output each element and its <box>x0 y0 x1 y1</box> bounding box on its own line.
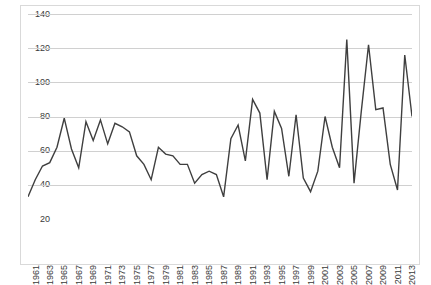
x-tick-label-1995: 1995 <box>278 265 287 285</box>
x-tick-label-1981: 1981 <box>176 265 185 285</box>
x-tick-label-2007: 2007 <box>365 265 374 285</box>
x-tick-label-2009: 2009 <box>379 265 388 285</box>
x-tick-label-1961: 1961 <box>32 265 41 285</box>
x-tick-label-1997: 1997 <box>292 265 301 285</box>
x-tick-label-1983: 1983 <box>191 265 200 285</box>
x-tick-label-1975: 1975 <box>133 265 142 285</box>
x-tick-label-2001: 2001 <box>321 265 330 285</box>
x-axis-tick-labels: 1961196319651967196919711973197519771979… <box>28 221 412 267</box>
x-tick-label-1985: 1985 <box>205 265 214 285</box>
x-tick-label-1973: 1973 <box>118 265 127 285</box>
x-tick-label-1979: 1979 <box>162 265 171 285</box>
x-tick-label-2005: 2005 <box>350 265 359 285</box>
data-series-1 <box>28 40 412 197</box>
x-tick-label-1989: 1989 <box>234 265 243 285</box>
x-tick-label-1987: 1987 <box>220 265 229 285</box>
gridlines <box>28 15 412 220</box>
x-tick-label-2013: 2013 <box>408 265 417 285</box>
x-tick-label-1971: 1971 <box>104 265 113 285</box>
x-tick-label-2003: 2003 <box>336 265 345 285</box>
x-tick-label-1993: 1993 <box>263 265 272 285</box>
x-tick-label-1969: 1969 <box>89 265 98 285</box>
x-tick-label-1963: 1963 <box>46 265 55 285</box>
x-tick-label-1991: 1991 <box>249 265 258 285</box>
x-tick-label-1967: 1967 <box>75 265 84 285</box>
x-tick-label-1965: 1965 <box>60 265 69 285</box>
plot-area <box>28 14 412 219</box>
series-group <box>28 40 412 197</box>
x-tick-label-2011: 2011 <box>394 265 403 284</box>
plot-svg <box>28 14 412 219</box>
x-tick-label-1977: 1977 <box>147 265 156 285</box>
x-tick-label-1999: 1999 <box>307 265 316 285</box>
